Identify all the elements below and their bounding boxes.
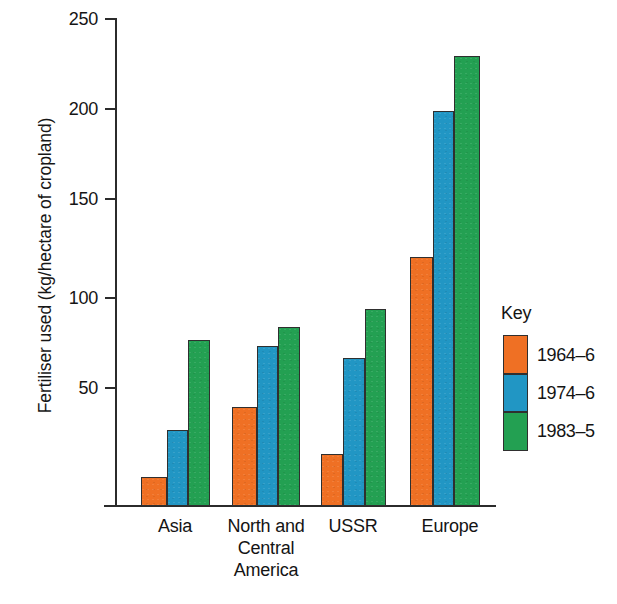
legend-label-1983-5: 1983–5 bbox=[537, 421, 595, 442]
fertiliser-bar-chart: Fertiliser used (kg/hectare of cropland)… bbox=[0, 0, 617, 604]
legend-swatch-1974-6 bbox=[503, 374, 528, 412]
x-category-label-europe: Europe bbox=[405, 515, 495, 537]
y-axis-title: Fertiliser used (kg/hectare of cropland) bbox=[35, 16, 56, 516]
legend-label-1974-6: 1974–6 bbox=[537, 383, 595, 404]
x-category-label-ussr: USSR bbox=[313, 515, 393, 537]
bar-europe-1983-5 bbox=[454, 56, 480, 506]
bar-asia-1964-6 bbox=[141, 477, 167, 506]
bar-ussr-1964-6 bbox=[321, 454, 343, 506]
y-tick-label-150: 150 bbox=[48, 189, 98, 210]
legend-title: Key bbox=[501, 303, 531, 324]
y-tick-label-50: 50 bbox=[48, 378, 98, 399]
y-axis-line bbox=[115, 18, 117, 507]
x-category-label-north-central-america-line2: Central bbox=[206, 537, 326, 559]
y-tick-label-200: 200 bbox=[48, 99, 98, 120]
legend-swatch-1983-5 bbox=[503, 412, 528, 451]
legend-label-1964-6: 1964–6 bbox=[537, 345, 595, 366]
bar-asia-1983-5 bbox=[188, 340, 210, 506]
bar-europe-1974-6 bbox=[433, 111, 454, 506]
bar-north-central-america-1983-5 bbox=[278, 327, 300, 506]
bar-north-central-america-1974-6 bbox=[257, 346, 278, 506]
bar-europe-1964-6 bbox=[410, 257, 433, 506]
x-category-label-north-central-america-line1: North and bbox=[206, 515, 326, 537]
bar-asia-1974-6 bbox=[167, 430, 188, 506]
y-tick-label-100: 100 bbox=[48, 288, 98, 309]
bar-north-central-america-1964-6 bbox=[232, 407, 257, 506]
legend-swatch-1964-6 bbox=[503, 335, 528, 374]
bar-ussr-1974-6 bbox=[343, 358, 365, 506]
x-category-label-north-central-america-line3: America bbox=[206, 559, 326, 581]
bar-ussr-1983-5 bbox=[365, 309, 386, 506]
y-tick-label-250: 250 bbox=[48, 9, 98, 30]
